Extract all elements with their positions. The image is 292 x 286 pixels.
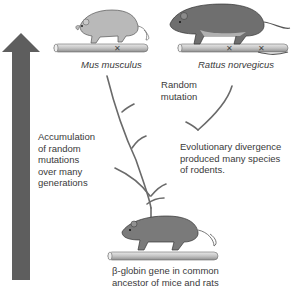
mouse-gene-bar: ✕	[54, 44, 148, 53]
mutation-mark-icon: ✕	[114, 44, 121, 53]
ancestor-gene-bar	[108, 252, 218, 260]
ancestor-label: β-globin gene in common ancestor of mice…	[112, 265, 219, 286]
mutation-mark-icon: ✕	[226, 44, 233, 53]
accumulation-label: Accumulation of random mutations over ma…	[38, 131, 95, 189]
random-mutation-label: Random mutation	[159, 79, 199, 102]
mouse-illustration	[76, 10, 149, 43]
mouse-species-label: Mus musculus	[81, 59, 142, 71]
rat-species-label: Rattus norvegicus	[198, 59, 274, 71]
rat-gene-bar: ✕ ✕	[178, 44, 288, 53]
time-arrow-icon	[2, 33, 40, 280]
divergence-label: Evolutionary divergence produced many sp…	[180, 141, 281, 176]
ancestor-rat-illustration	[122, 216, 216, 250]
